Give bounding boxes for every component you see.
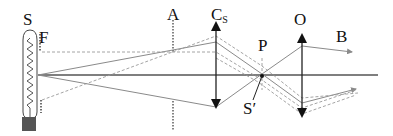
label-condenser: CS <box>211 6 228 23</box>
label-condenser-main: C <box>211 5 222 24</box>
bulb-icon <box>22 30 37 131</box>
label-condenser-sub: S <box>222 14 228 25</box>
label-source: S <box>23 11 32 28</box>
label-objective: O <box>294 11 306 28</box>
label-aperture: A <box>167 6 179 23</box>
label-source-image: S′ <box>243 100 256 117</box>
label-field-stop: F <box>39 29 48 46</box>
label-pupil-point: P <box>258 37 267 54</box>
label-beam: B <box>336 28 347 45</box>
filament-icon <box>27 38 33 118</box>
condenser-lens-icon <box>211 21 221 109</box>
bulb-base <box>22 117 36 131</box>
optical-diagram <box>0 0 393 136</box>
